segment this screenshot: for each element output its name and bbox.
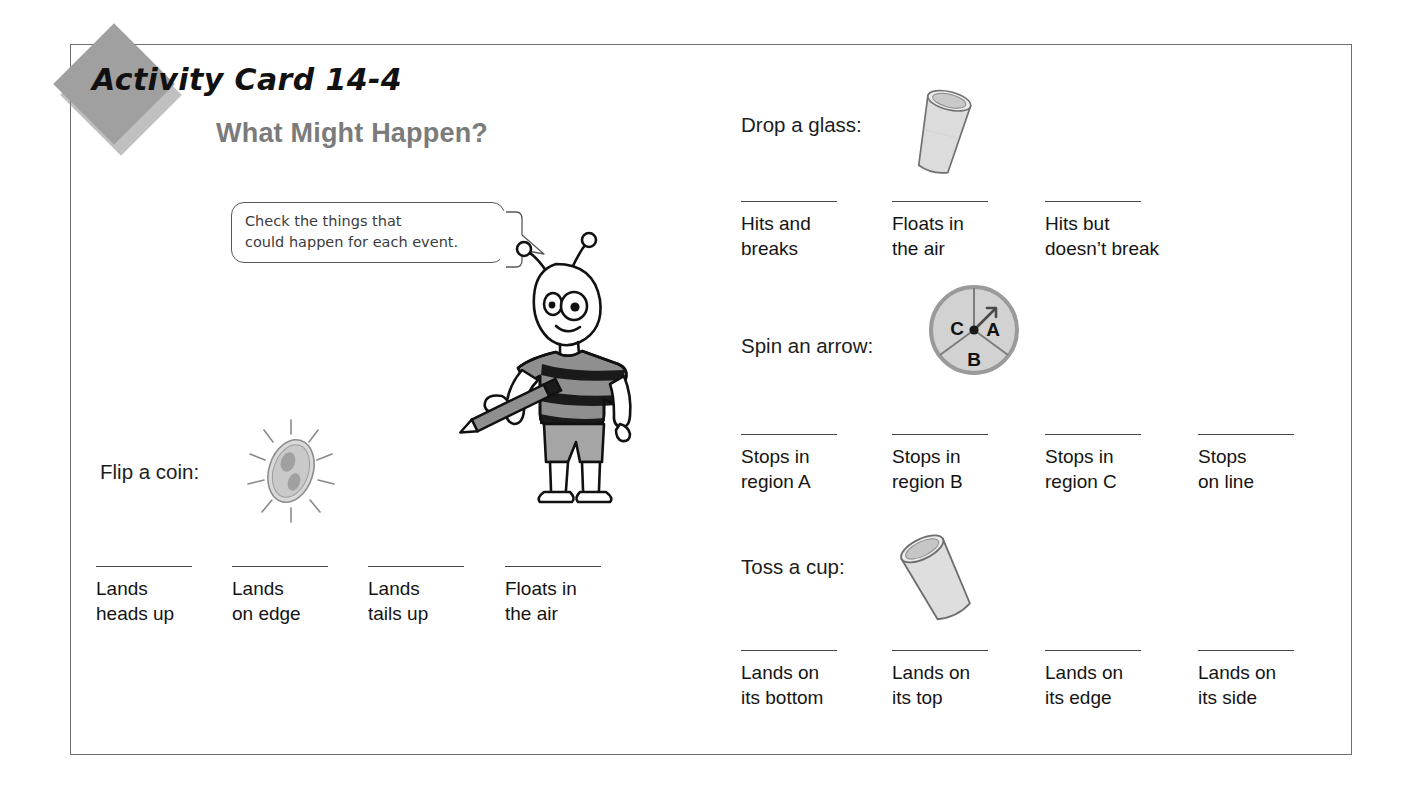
option-line-2: its top	[892, 685, 1020, 710]
blank-line[interactable]	[1045, 434, 1141, 435]
option-cup-2[interactable]: Lands on its top	[892, 650, 1020, 710]
option-cup-1[interactable]: Lands on its bottom	[741, 650, 869, 710]
spinner-icon: C A B	[927, 283, 1021, 377]
option-label: Lands on edge	[232, 576, 360, 626]
option-glass-1[interactable]: Hits and breaks	[741, 201, 869, 261]
option-label: Lands heads up	[96, 576, 224, 626]
blank-line[interactable]	[232, 566, 328, 567]
option-line-1: Stops in	[892, 444, 1020, 469]
blank-line[interactable]	[892, 650, 988, 651]
blank-line[interactable]	[1045, 201, 1141, 202]
page-title: Activity Card 14-4	[92, 62, 402, 97]
prompt-spin-an-arrow: Spin an arrow:	[741, 334, 873, 358]
option-label: Floats in the air	[505, 576, 633, 626]
option-line-2: region A	[741, 469, 869, 494]
blank-line[interactable]	[368, 566, 464, 567]
blank-line[interactable]	[741, 650, 837, 651]
option-line-1: Stops in	[1045, 444, 1173, 469]
option-line-2: on edge	[232, 601, 360, 626]
option-glass-2[interactable]: Floats in the air	[892, 201, 1020, 261]
option-line-2: the air	[505, 601, 633, 626]
option-label: Lands tails up	[368, 576, 496, 626]
option-line-1: Floats in	[892, 211, 1020, 236]
option-cup-4[interactable]: Lands on its side	[1198, 650, 1326, 710]
option-line-1: Stops	[1198, 444, 1326, 469]
option-label: Lands on its bottom	[741, 660, 869, 710]
option-coin-2[interactable]: Lands on edge	[232, 566, 360, 626]
blank-line[interactable]	[96, 566, 192, 567]
option-line-1: Hits and	[741, 211, 869, 236]
option-line-2: heads up	[96, 601, 224, 626]
option-line-2: the air	[892, 236, 1020, 261]
option-arrow-2[interactable]: Stops in region B	[892, 434, 1020, 494]
cup-icon	[884, 523, 992, 635]
option-line-1: Floats in	[505, 576, 633, 601]
option-label: Lands on its top	[892, 660, 1020, 710]
option-line-1: Lands	[232, 576, 360, 601]
option-arrow-4[interactable]: Stops on line	[1198, 434, 1326, 494]
option-line-2: doesn’t break	[1045, 236, 1215, 261]
blank-line[interactable]	[892, 201, 988, 202]
option-line-1: Lands on	[1198, 660, 1326, 685]
coin-icon	[236, 412, 346, 530]
option-label: Stops in region A	[741, 444, 869, 494]
card-border	[70, 44, 1352, 755]
blank-line[interactable]	[741, 201, 837, 202]
prompt-toss-a-cup: Toss a cup:	[741, 555, 845, 579]
option-label: Stops in region B	[892, 444, 1020, 494]
blank-line[interactable]	[892, 434, 988, 435]
option-label: Stops in region C	[1045, 444, 1173, 494]
option-line-1: Lands on	[892, 660, 1020, 685]
option-label: Hits but doesn’t break	[1045, 211, 1215, 261]
option-line-1: Lands on	[741, 660, 869, 685]
option-label: Lands on its side	[1198, 660, 1326, 710]
prompt-drop-a-glass: Drop a glass:	[741, 113, 862, 137]
option-line-1: Lands	[96, 576, 224, 601]
glass-icon	[893, 82, 991, 186]
card-heading: What Might Happen?	[216, 118, 488, 149]
option-line-2: on line	[1198, 469, 1326, 494]
option-coin-3[interactable]: Lands tails up	[368, 566, 496, 626]
option-coin-4[interactable]: Floats in the air	[505, 566, 633, 626]
spinner-region-b-label: B	[967, 349, 981, 370]
blank-line[interactable]	[1045, 650, 1141, 651]
option-line-1: Lands	[368, 576, 496, 601]
option-label: Hits and breaks	[741, 211, 869, 261]
option-line-2: region B	[892, 469, 1020, 494]
option-line-2: its bottom	[741, 685, 869, 710]
student-character-illustration	[452, 218, 662, 506]
option-coin-1[interactable]: Lands heads up	[96, 566, 224, 626]
blank-line[interactable]	[1198, 650, 1294, 651]
option-line-2: its side	[1198, 685, 1326, 710]
spinner-region-a-label: A	[986, 319, 1000, 340]
blank-line[interactable]	[1198, 434, 1294, 435]
option-line-2: breaks	[741, 236, 869, 261]
option-line-1: Stops in	[741, 444, 869, 469]
option-line-1: Lands on	[1045, 660, 1173, 685]
option-cup-3[interactable]: Lands on its edge	[1045, 650, 1173, 710]
option-line-2: its edge	[1045, 685, 1173, 710]
option-label: Stops on line	[1198, 444, 1326, 494]
blank-line[interactable]	[741, 434, 837, 435]
option-glass-3[interactable]: Hits but doesn’t break	[1045, 201, 1215, 261]
prompt-flip-a-coin: Flip a coin:	[100, 460, 199, 484]
option-label: Lands on its edge	[1045, 660, 1173, 710]
option-line-2: region C	[1045, 469, 1173, 494]
option-label: Floats in the air	[892, 211, 1020, 261]
activity-card-page: Activity Card 14-4 What Might Happen? Ch…	[0, 0, 1408, 797]
blank-line[interactable]	[505, 566, 601, 567]
option-line-2: tails up	[368, 601, 496, 626]
option-line-1: Hits but	[1045, 211, 1215, 236]
option-arrow-1[interactable]: Stops in region A	[741, 434, 869, 494]
spinner-region-c-label: C	[950, 318, 964, 339]
option-arrow-3[interactable]: Stops in region C	[1045, 434, 1173, 494]
